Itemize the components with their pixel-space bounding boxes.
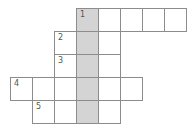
crossword-cell[interactable]: 1: [76, 8, 99, 32]
crossword-cell[interactable]: 4: [10, 77, 33, 101]
crossword-cell[interactable]: [98, 77, 121, 101]
clue-number: 4: [14, 79, 19, 88]
crossword-cell[interactable]: 5: [32, 100, 55, 124]
crossword-cell[interactable]: [120, 77, 143, 101]
crossword-cell[interactable]: [98, 54, 121, 78]
crossword-grid: 12345: [0, 0, 194, 127]
clue-number: 5: [36, 102, 41, 111]
crossword-cell[interactable]: [54, 100, 77, 124]
crossword-cell[interactable]: [76, 54, 99, 78]
crossword-cell[interactable]: [98, 31, 121, 55]
crossword-cell[interactable]: [54, 77, 77, 101]
crossword-cell[interactable]: [32, 77, 55, 101]
crossword-cell[interactable]: [76, 31, 99, 55]
clue-number: 2: [58, 33, 63, 42]
crossword-cell[interactable]: [120, 8, 143, 32]
crossword-cell[interactable]: [98, 8, 121, 32]
crossword-cell[interactable]: [142, 8, 165, 32]
clue-number: 1: [80, 10, 85, 19]
clue-number: 3: [58, 56, 63, 65]
crossword-cell[interactable]: [76, 100, 99, 124]
crossword-cell[interactable]: [164, 8, 187, 32]
crossword-cell[interactable]: 2: [54, 31, 77, 55]
crossword-cell[interactable]: 3: [54, 54, 77, 78]
crossword-cell[interactable]: [76, 77, 99, 101]
crossword-cell[interactable]: [98, 100, 121, 124]
